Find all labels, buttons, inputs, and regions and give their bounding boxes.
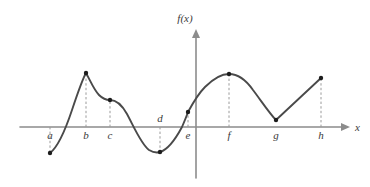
y-axis-label: f(x) xyxy=(177,12,193,25)
tick-label-d: d xyxy=(157,112,163,124)
marked-points-group xyxy=(48,71,323,155)
x-axis-label: x xyxy=(354,121,360,133)
tick-label-a: a xyxy=(47,129,53,141)
x-axis-arrowhead xyxy=(341,123,350,131)
tick-label-f: f xyxy=(227,129,232,141)
guide-lines-group xyxy=(50,73,321,153)
function-curve xyxy=(50,73,321,153)
tick-label-c: c xyxy=(108,129,113,141)
point-marker-b xyxy=(84,71,88,75)
y-axis-group: f(x) xyxy=(177,12,200,178)
tick-label-h: h xyxy=(318,129,324,141)
tick-label-b: b xyxy=(83,129,89,141)
point-marker-h xyxy=(319,76,323,80)
point-marker-a xyxy=(48,151,52,155)
tick-label-e: e xyxy=(186,129,191,141)
point-marker-c xyxy=(108,98,112,102)
point-marker-d xyxy=(158,150,162,154)
tick-label-g: g xyxy=(273,129,279,141)
point-marker-g xyxy=(274,118,278,122)
y-axis-arrowhead xyxy=(192,29,200,38)
graph-canvas: x f(x) xyxy=(0,0,370,187)
point-marker-f xyxy=(227,72,231,76)
point-marker-e xyxy=(186,110,190,114)
function-graph-figure: x f(x) xyxy=(0,0,370,187)
